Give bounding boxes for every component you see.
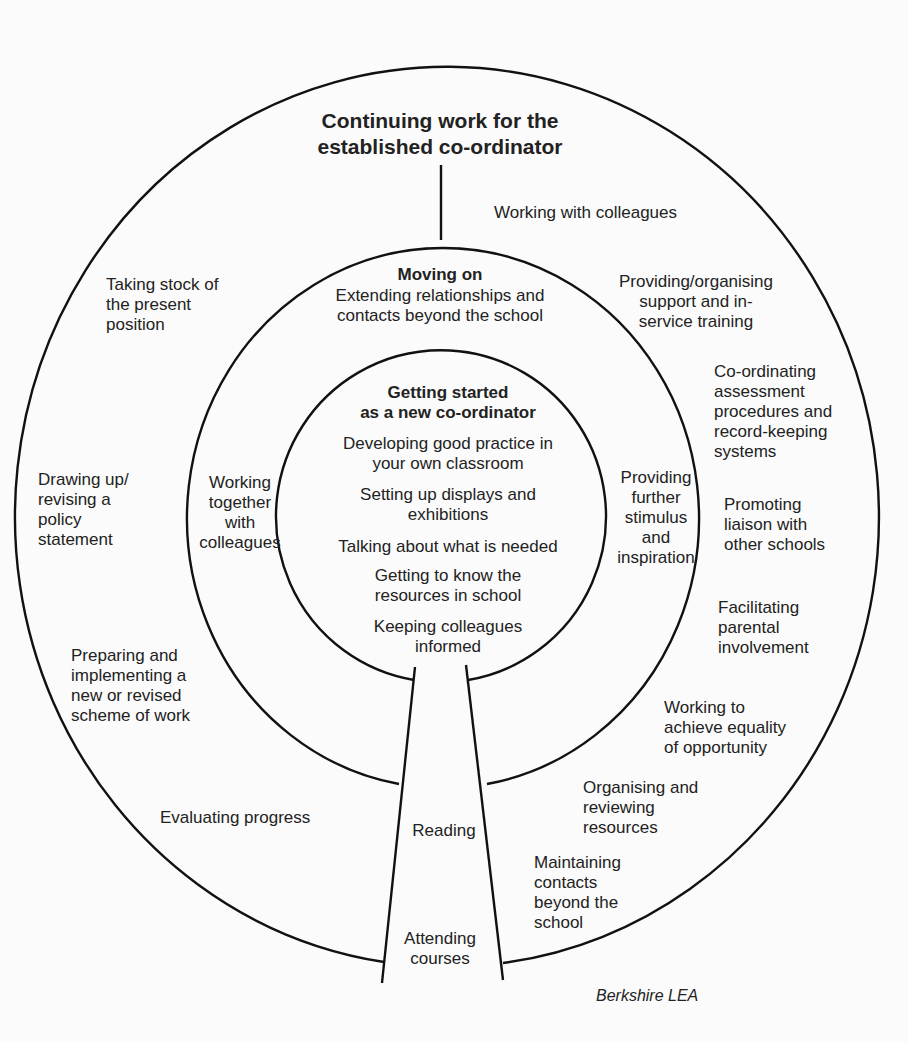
outer-item-maintaining-contacts: Maintaining contacts beyond the school bbox=[534, 853, 621, 933]
outer-item-evaluating-progress: Evaluating progress bbox=[160, 808, 310, 828]
outer-item-promoting-liaison: Promoting liaison with other schools bbox=[724, 495, 825, 555]
outer-item-taking-stock: Taking stock of the present position bbox=[106, 275, 218, 335]
middle-ring-subtitle: Extending relationships and contacts bey… bbox=[290, 286, 590, 326]
outer-item-facilitating-parental: Facilitating parental involvement bbox=[718, 598, 809, 658]
stem-item-reading: Reading bbox=[394, 821, 494, 841]
inner-item-developing-practice: Developing good practice in your own cla… bbox=[298, 434, 598, 474]
source-credit: Berkshire LEA bbox=[596, 987, 698, 1005]
outer-item-equality-of-opportunity: Working to achieve equality of opportuni… bbox=[664, 698, 786, 758]
inner-circle-title: Getting started as a new co-ordinator bbox=[298, 383, 598, 423]
middle-ring-title: Moving on bbox=[290, 265, 590, 285]
inner-item-getting-to-know-resources: Getting to know the resources in school bbox=[298, 566, 598, 606]
outer-item-organising-resources: Organising and reviewing resources bbox=[583, 778, 698, 838]
middle-ring-left-label: Working together with colleagues bbox=[190, 473, 290, 553]
outer-item-coordinating-assessment: Co-ordinating assessment procedures and … bbox=[714, 362, 832, 462]
middle-ring-right-label: Providing further stimulus and inspirati… bbox=[606, 468, 706, 568]
outer-item-working-with-colleagues: Working with colleagues bbox=[494, 203, 677, 223]
inner-item-keeping-colleagues-informed: Keeping colleagues informed bbox=[298, 617, 598, 657]
inner-item-setting-up-displays: Setting up displays and exhibitions bbox=[298, 485, 598, 525]
outer-item-drawing-up-policy: Drawing up/ revising a policy statement bbox=[38, 470, 129, 550]
outer-item-preparing-scheme: Preparing and implementing a new or revi… bbox=[71, 646, 190, 726]
stem-item-attending-courses: Attending courses bbox=[390, 929, 490, 969]
outer-item-providing-support: Providing/organising support and in- ser… bbox=[606, 272, 786, 332]
outer-ring-title: Continuing work for the established co-o… bbox=[290, 108, 590, 160]
inner-item-talking-about-needs: Talking about what is needed bbox=[298, 537, 598, 557]
